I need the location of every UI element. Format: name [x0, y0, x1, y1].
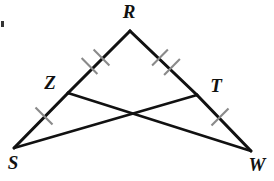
geometry-diagram: R S W Z T: [0, 0, 274, 181]
vertex-label-R: R: [122, 1, 136, 22]
tick-group-segment-RZ: [82, 50, 110, 74]
vertex-label-T: T: [210, 75, 223, 96]
vertex-label-S: S: [8, 152, 19, 173]
segment-R-Z: [68, 31, 130, 93]
vertex-label-Z: Z: [43, 72, 56, 93]
segment-R-T: [130, 31, 197, 95]
vertex-label-W: W: [249, 154, 267, 175]
geometry-figure-canvas: R S W Z T: [0, 0, 274, 181]
tick-group-segment-RT: [152, 50, 180, 75]
edge-speck: [1, 21, 4, 27]
